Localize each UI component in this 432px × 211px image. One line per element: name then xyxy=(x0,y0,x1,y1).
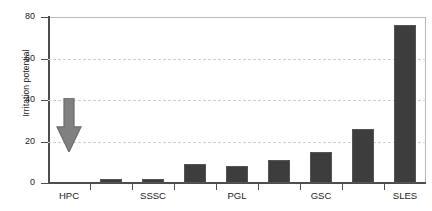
bar xyxy=(310,152,332,183)
bar xyxy=(394,25,416,183)
y-tick-label-80: 80 xyxy=(5,12,35,21)
x-tick xyxy=(258,184,259,190)
y-tick-60 xyxy=(41,59,48,60)
gridline-60 xyxy=(48,59,426,60)
bar xyxy=(184,164,206,183)
down-arrow-annotation xyxy=(56,98,82,152)
x-tick xyxy=(90,184,91,190)
x-tick-label-pgl: PGL xyxy=(205,191,269,201)
x-tick xyxy=(342,184,343,190)
y-tick-80 xyxy=(41,17,48,18)
x-tick-label-hpc: HPC xyxy=(37,191,101,201)
x-tick xyxy=(132,184,133,190)
chart-figure: Irritation potential 020406080 HPCSSSCPG… xyxy=(0,0,432,211)
x-tick-label-sssc: SSSC xyxy=(121,191,185,201)
bar xyxy=(268,160,290,183)
bar xyxy=(352,129,374,183)
y-tick-0 xyxy=(41,183,48,184)
x-tick xyxy=(216,184,217,190)
bar xyxy=(142,179,164,183)
y-tick-label-20: 20 xyxy=(5,137,35,146)
x-tick-label-sles: SLES xyxy=(373,191,432,201)
bar xyxy=(100,179,122,183)
y-tick-20 xyxy=(41,142,48,143)
y-tick-label-60: 60 xyxy=(5,54,35,63)
gridline-40 xyxy=(48,100,426,101)
x-tick xyxy=(174,184,175,190)
x-tick-label-gsc: GSC xyxy=(289,191,353,201)
x-tick xyxy=(300,184,301,190)
y-tick-label-40: 40 xyxy=(5,95,35,104)
bar xyxy=(226,166,248,183)
x-tick xyxy=(384,184,385,190)
y-tick-40 xyxy=(41,100,48,101)
y-tick-label-0: 0 xyxy=(5,178,35,187)
